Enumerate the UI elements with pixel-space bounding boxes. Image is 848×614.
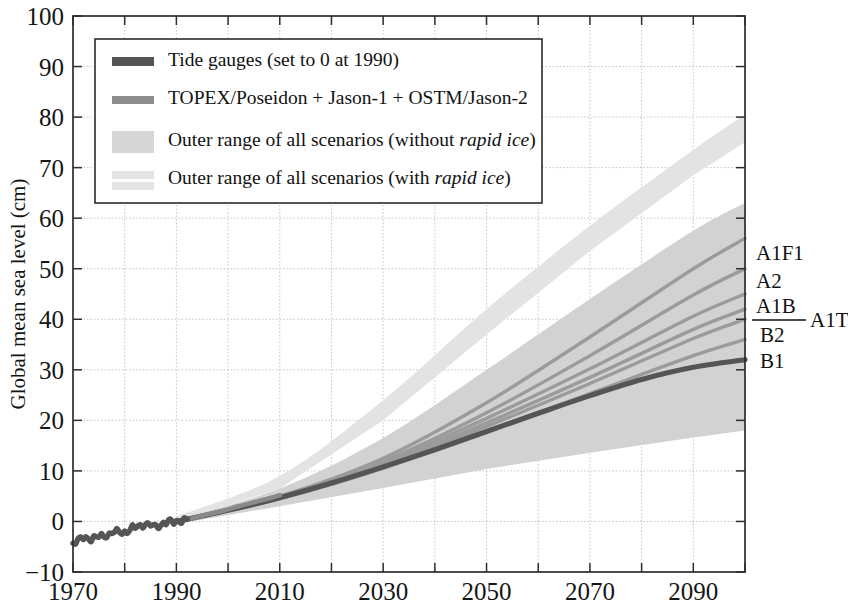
y-tick-label: 60 — [39, 205, 64, 232]
legend-swatch-outer-range-with-rapid-ice-top — [112, 171, 154, 179]
legend-swatch-tide-gauges — [112, 57, 154, 66]
y-tick-label: 40 — [39, 306, 64, 333]
legend-label-part-italic: rapid ice — [434, 167, 504, 188]
y-tick-label: 20 — [39, 407, 64, 434]
x-tick-label: 2050 — [462, 578, 512, 605]
y-tick-label: 0 — [52, 508, 65, 535]
y-tick-label: 70 — [39, 155, 64, 182]
scenario-label-a1t: A1T — [810, 308, 848, 332]
x-tick-labels: 1970199020102030205020702090 — [48, 578, 718, 605]
legend-label-outer-range-without-rapid-ice: Outer range of all scenarios (without ra… — [168, 129, 536, 151]
legend-label-outer-range-with-rapid-ice: Outer range of all scenarios (with rapid… — [168, 167, 511, 189]
chart-canvas: −100102030405060708090100 19701990201020… — [0, 0, 848, 614]
legend: Tide gauges (set to 0 at 1990) TOPEX/Pos… — [95, 39, 542, 203]
scenario-label-b2: B2 — [760, 323, 785, 347]
legend-swatch-satellite-altimetry — [112, 96, 154, 104]
y-tick-label: 10 — [39, 458, 64, 485]
legend-label-part-plain: Outer range of all scenarios (without — [168, 129, 459, 151]
x-tick-label: 2030 — [358, 578, 408, 605]
scenario-label-a2: A2 — [756, 269, 782, 293]
legend-label-part-tail: ) — [504, 167, 511, 189]
legend-label-part-plain: Outer range of all scenarios (with — [168, 167, 434, 189]
y-tick-label: 50 — [39, 256, 64, 283]
x-tick-label: 1970 — [48, 578, 98, 605]
legend-label-satellite-altimetry: TOPEX/Poseidon + Jason-1 + OSTM/Jason-2 — [168, 87, 528, 108]
y-tick-label: 80 — [39, 104, 64, 131]
scenario-annotations: A1F1 A2 A1B A1T B2 B1 — [752, 241, 848, 373]
x-tick-label: 2070 — [565, 578, 615, 605]
x-tick-label: 2090 — [668, 578, 718, 605]
legend-label-tide-gauges: Tide gauges (set to 0 at 1990) — [168, 49, 399, 71]
y-axis-title: Global mean sea level (cm) — [6, 179, 30, 410]
y-tick-label: 90 — [39, 54, 64, 81]
legend-label-part-italic: rapid ice — [459, 129, 529, 150]
x-tick-label: 2010 — [255, 578, 305, 605]
sea-level-projection-figure: −100102030405060708090100 19701990201020… — [0, 0, 848, 614]
legend-swatch-outer-range-without-rapid-ice — [112, 131, 154, 153]
y-tick-labels: −100102030405060708090100 — [25, 3, 64, 586]
x-tick-label: 1990 — [151, 578, 201, 605]
scenario-label-a1b: A1B — [756, 294, 796, 318]
y-tick-label: 30 — [39, 357, 64, 384]
legend-swatch-outer-range-with-rapid-ice-bottom — [112, 182, 154, 190]
scenario-label-a1f1: A1F1 — [756, 241, 804, 265]
scenario-label-b1: B1 — [760, 349, 785, 373]
legend-label-part-tail: ) — [529, 129, 536, 151]
y-tick-label: 100 — [27, 3, 65, 30]
